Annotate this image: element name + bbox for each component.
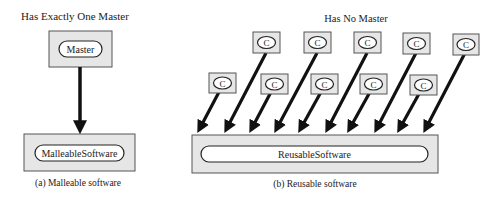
client-label: C bbox=[413, 39, 419, 49]
client-label: C bbox=[314, 38, 320, 48]
client-node: C bbox=[403, 33, 430, 54]
client-node: C bbox=[253, 32, 280, 53]
master-node: Master bbox=[49, 31, 112, 67]
client-node: C bbox=[360, 74, 387, 94]
client-node: C bbox=[311, 74, 338, 94]
client-node: C bbox=[261, 74, 288, 94]
client-label: C bbox=[463, 40, 469, 50]
client-node: C bbox=[354, 32, 381, 53]
reusable-software-label: ReusableSoftware bbox=[278, 149, 351, 160]
client-node: C bbox=[453, 34, 479, 55]
client-label: C bbox=[420, 81, 426, 91]
client-label: C bbox=[364, 38, 370, 48]
client-label: C bbox=[370, 80, 376, 90]
client-label: C bbox=[321, 80, 327, 90]
malleable-panel: Has Exactly One Master Master MalleableS… bbox=[21, 10, 135, 189]
diagram-canvas: Has Exactly One Master Master MalleableS… bbox=[0, 0, 499, 203]
client-label: C bbox=[219, 79, 225, 89]
reusable-panel: Has No Master C C C bbox=[192, 13, 479, 190]
client-node: C bbox=[304, 32, 331, 53]
malleable-software-node: MalleableSoftware bbox=[24, 134, 135, 171]
client-node: C bbox=[209, 73, 236, 93]
client-node: C bbox=[410, 75, 437, 95]
left-caption: (a) Malleable software bbox=[35, 178, 121, 189]
reusable-software-node: ReusableSoftware bbox=[192, 135, 438, 173]
right-heading: Has No Master bbox=[324, 13, 388, 24]
malleable-software-label: MalleableSoftware bbox=[41, 148, 118, 159]
left-heading: Has Exactly One Master bbox=[21, 10, 129, 22]
client-label: C bbox=[271, 80, 277, 90]
right-caption: (b) Reusable software bbox=[273, 179, 356, 190]
master-label: Master bbox=[67, 44, 95, 55]
client-label: C bbox=[263, 38, 269, 48]
